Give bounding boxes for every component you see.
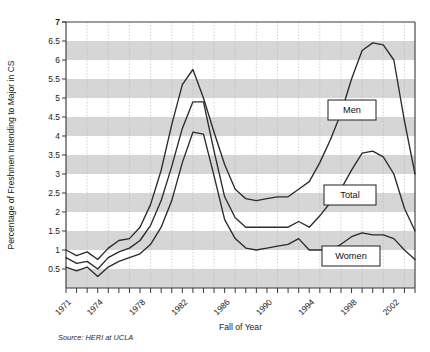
x-tick-label: 1974 — [85, 297, 105, 317]
y-tick-label: 5 — [55, 93, 60, 103]
x-tick-label: 1978 — [127, 297, 147, 317]
chart-container: 0.511.522.533.544.555.566.57719711974197… — [0, 0, 430, 352]
x-tick-label: 1982 — [169, 297, 189, 317]
y-axis-title: Percentage of Freshmen Intending to Majo… — [6, 60, 16, 249]
legend-label-women: Women — [322, 246, 380, 266]
y-tick-label: 3 — [55, 169, 60, 179]
x-tick-label: 1998 — [338, 297, 358, 317]
legend-text: Total — [340, 190, 359, 200]
y-tick-label: 1 — [55, 245, 60, 255]
source-note: Source: HERI at UCLA — [58, 333, 133, 342]
legend-label-men: Men — [328, 100, 376, 120]
y-tick-label: 2 — [55, 207, 60, 217]
legend-label-total: Total — [324, 185, 376, 205]
y-tick-label: 6.5 — [48, 36, 60, 46]
y-tick-label: 1.5 — [48, 226, 60, 236]
x-tick-label: 1971 — [53, 297, 73, 317]
x-tick-label: 1994 — [296, 297, 316, 317]
x-tick-label: 2002 — [381, 297, 401, 317]
grid-band — [66, 79, 415, 98]
y-tick-label: 4.5 — [48, 112, 60, 122]
legend-text: Women — [335, 251, 367, 261]
y-tick-label: 0.5 — [48, 264, 60, 274]
y-tick-label: 7 — [55, 17, 60, 27]
y-tick-label: 2.5 — [48, 188, 60, 198]
grid-band — [66, 269, 415, 288]
y-tick-label: 3.5 — [48, 150, 60, 160]
grid-band — [66, 155, 415, 174]
y-tick-label: 4 — [55, 131, 60, 141]
y-tick-label: 6 — [55, 55, 60, 65]
x-tick-label: 1986 — [211, 297, 231, 317]
y-tick-label: 5.5 — [48, 74, 60, 84]
x-axis-title: Fall of Year — [219, 322, 262, 332]
cs-major-freshmen-line-chart: 0.511.522.533.544.555.566.57719711974197… — [0, 0, 430, 352]
x-tick-label: 1990 — [254, 297, 274, 317]
legend-text: Men — [343, 105, 361, 115]
